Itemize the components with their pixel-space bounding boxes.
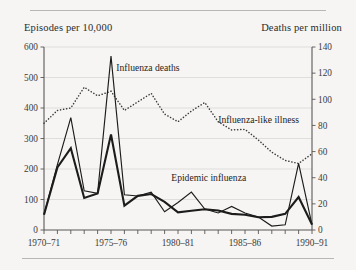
x-axis-tick-label: 1990–91: [296, 238, 329, 248]
x-axis-tick-label: 1975–76: [95, 238, 128, 248]
left-axis-tick-label: 300: [24, 134, 38, 144]
right-axis-tick-label: 100: [318, 95, 332, 105]
left-axis-tick-label: 400: [24, 103, 38, 113]
x-axis-tick-label: 1985–86: [229, 238, 262, 248]
right-axis-tick-label: 120: [318, 68, 332, 78]
figure-container: Episodes per 10,000 Deaths per million 0…: [0, 0, 356, 270]
right-axis-tick-label: 60: [318, 147, 328, 157]
right-axis-tick-label: 0: [318, 225, 323, 235]
right-axis-tick-label: 20: [318, 199, 328, 209]
series-annotation-label: Influenza-like illness: [218, 114, 299, 125]
left-axis-tick-label: 200: [24, 164, 38, 174]
series-line: [44, 87, 312, 163]
left-axis-tick-label: 600: [24, 42, 38, 52]
left-axis-tick-label: 100: [24, 195, 38, 205]
x-axis-tick-label: 1980–81: [162, 238, 195, 248]
left-axis-tick-label: 500: [24, 73, 38, 83]
right-axis-tick-label: 40: [318, 173, 328, 183]
plot-area: 0100200300400500600020406080100120140197…: [0, 0, 356, 270]
series-line: [44, 56, 312, 226]
right-axis-tick-label: 140: [318, 42, 332, 52]
line-chart: 0100200300400500600020406080100120140197…: [0, 0, 356, 270]
x-axis-tick-label: 1970–71: [28, 238, 61, 248]
right-axis-tick-label: 80: [318, 121, 328, 131]
left-axis-tick-label: 0: [33, 225, 38, 235]
series-annotation-label: Epidemic influenza: [171, 172, 247, 183]
series-annotation-label: Influenza deaths: [116, 62, 179, 73]
